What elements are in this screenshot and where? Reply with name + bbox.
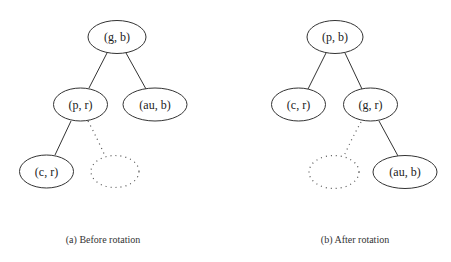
node-label: (p, b) [322,30,348,44]
node-left-left: (c, r) [20,155,74,188]
edge-left-leftleft [55,121,71,155]
node-label: (au, b) [139,98,170,112]
caption-a: (a) Before rotation [66,234,140,246]
node-left: (c, r) [272,88,326,121]
node-label: (c, r) [35,165,58,179]
node-label: (p, r) [69,98,93,112]
node-label: (g, b) [104,30,130,44]
node-left: (p, r) [54,88,108,121]
node-root: (g, b) [88,21,146,54]
rotation-diagram: (g, b) (p, r) (au, b) (c, r) (a) Before … [0,0,451,262]
edge-right-placeholder [344,122,361,156]
node-root: (p, b) [307,21,363,54]
caption-b: (b) After rotation [321,234,389,246]
edge-root-left [89,53,107,88]
diagram-before-rotation: (g, b) (p, r) (au, b) (c, r) (a) Before … [20,21,188,247]
edge-root-right [345,53,362,89]
node-right-right: (au, b) [373,156,437,189]
diagram-after-rotation: (p, b) (c, r) (g, r) (au, b) (b) After r… [272,21,438,247]
node-label: (au, b) [389,165,420,179]
node-right: (g, r) [344,88,398,121]
node-label: (g, r) [359,98,383,112]
node-right: (au, b) [123,88,187,121]
node-placeholder-dotted [309,156,359,189]
edge-root-left [308,53,326,89]
node-label: (c, r) [287,98,310,112]
edge-right-rightright [379,121,398,156]
edge-root-right [126,53,146,89]
edge-left-placeholder [88,121,105,156]
node-placeholder-dotted [91,156,139,188]
